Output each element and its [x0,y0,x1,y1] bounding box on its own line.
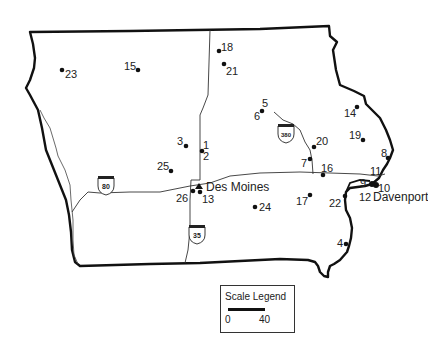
site-label-26: 26 [176,193,188,204]
interstate-80-shield: 80 [98,176,114,195]
marker-5-6 [260,109,265,114]
marker-26 [191,189,196,194]
marker-7 [308,157,313,162]
site-label-16: 16 [321,163,333,174]
site-label-24: 24 [259,202,271,213]
site-label-23: 23 [65,69,77,80]
interstate-35-shield: 35 [189,225,205,244]
site-label-21: 21 [226,66,238,77]
site-label-9: 9 [360,178,366,189]
site-label-11: 11 [370,166,381,177]
marker-22 [343,194,348,199]
site-label-8: 8 [381,148,387,159]
legend-title: Scale Legend [225,291,286,302]
interstate-380-shield: 380 [278,124,294,143]
marker-19 [361,138,366,143]
site-label-13: 13 [202,194,214,205]
marker-25 [169,169,174,174]
site-markers [60,49,391,247]
marker-15 [136,68,141,73]
site-label-20: 20 [316,136,328,147]
site-label-6: 6 [254,111,260,122]
site-label-18: 18 [221,42,233,53]
site-label-12: 12 [359,192,371,203]
legend-max-label: 40 [259,314,270,325]
site-label-2: 2 [203,151,209,162]
marker-24 [253,205,258,210]
svg-text:80: 80 [102,183,110,190]
city-label-des-moines: Des Moines [206,182,269,193]
scale-bar [228,308,265,311]
site-label-7: 7 [301,158,307,169]
marker-23 [60,68,65,73]
interstate-380-line [274,112,313,174]
svg-text:35: 35 [193,232,201,239]
legend-min-label: 0 [225,314,231,325]
site-label-19: 19 [349,130,361,141]
marker-3 [184,144,189,149]
marker-17 [308,193,313,198]
site-label-3: 3 [177,136,183,147]
site-label-14: 14 [344,108,356,119]
site-label-22: 22 [329,198,341,209]
site-label-4: 4 [337,238,343,249]
site-label-25: 25 [157,161,169,172]
scale-legend: Scale Legend 0 40 [220,285,295,333]
site-label-15: 15 [124,61,136,72]
site-label-5: 5 [262,98,268,109]
site-label-17: 17 [296,196,308,207]
marker-4 [344,242,349,247]
svg-text:380: 380 [281,132,292,138]
city-label-davenport: Davenport [373,192,428,203]
